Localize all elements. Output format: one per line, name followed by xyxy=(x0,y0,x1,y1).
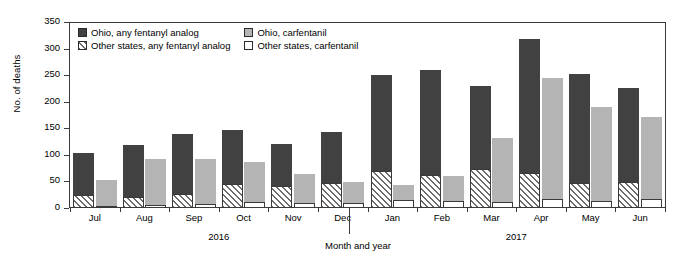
x-axis-label-apr: Apr xyxy=(516,212,566,223)
bar xyxy=(145,159,166,208)
legend-label: Other states, carfentanil xyxy=(257,40,358,51)
x-axis-label-sep: Sep xyxy=(169,212,219,223)
segment-other-states-any-fentanyl-analog xyxy=(519,173,540,208)
x-axis-title: Month and year xyxy=(258,240,458,251)
x-axis-label-oct: Oct xyxy=(219,212,269,223)
segment-other-states-carfentanil xyxy=(393,200,414,208)
solid-dark-swatch-icon xyxy=(78,28,87,37)
y-axis-tick-label: 250 xyxy=(44,68,60,79)
segment-ohio-carfentanil xyxy=(343,182,364,203)
segment-ohio-any-fentanyl-analog xyxy=(618,88,639,182)
segment-ohio-any-fentanyl-analog xyxy=(321,132,342,183)
legend-item-ohio-analog: Ohio, any fentanyl analog xyxy=(78,27,230,38)
y-axis-tick-mark xyxy=(64,75,69,76)
segment-other-states-carfentanil xyxy=(244,202,265,208)
bar xyxy=(519,39,540,208)
x-axis-tick-mark xyxy=(665,208,666,212)
segment-other-states-carfentanil xyxy=(591,201,612,208)
y-axis-tick-mark xyxy=(64,128,69,129)
bar xyxy=(195,159,216,208)
bar xyxy=(343,182,364,208)
segment-other-states-any-fentanyl-analog xyxy=(618,182,639,208)
segment-ohio-carfentanil xyxy=(492,138,513,201)
bar xyxy=(294,174,315,208)
bar xyxy=(542,78,563,208)
segment-ohio-carfentanil xyxy=(591,107,612,202)
bar xyxy=(271,144,292,208)
segment-ohio-carfentanil xyxy=(145,159,166,206)
bar xyxy=(96,180,117,208)
y-axis-tick-label: 100 xyxy=(44,148,60,159)
segment-ohio-any-fentanyl-analog xyxy=(470,86,491,168)
open-white-swatch-icon xyxy=(244,41,253,50)
x-axis-label-jul: Jul xyxy=(70,212,120,223)
bar xyxy=(371,75,392,208)
bar xyxy=(172,134,193,208)
bar xyxy=(492,138,513,208)
y-axis-tick-label: 50 xyxy=(49,174,60,185)
y-axis-tick-mark xyxy=(64,22,69,23)
segment-ohio-carfentanil xyxy=(244,162,265,202)
segment-other-states-carfentanil xyxy=(641,199,662,208)
legend-label: Other states, any fentanyl analog xyxy=(91,40,230,51)
y-axis-tick-label: 300 xyxy=(44,42,60,53)
segment-other-states-carfentanil xyxy=(294,203,315,208)
segment-other-states-any-fentanyl-analog xyxy=(123,197,144,208)
segment-ohio-carfentanil xyxy=(195,159,216,205)
segment-other-states-carfentanil xyxy=(492,202,513,208)
segment-other-states-carfentanil xyxy=(145,205,166,208)
bar xyxy=(393,185,414,208)
segment-other-states-any-fentanyl-analog xyxy=(470,169,491,208)
segment-ohio-carfentanil xyxy=(393,185,414,200)
segment-ohio-any-fentanyl-analog xyxy=(172,134,193,195)
segment-ohio-carfentanil xyxy=(443,176,464,201)
x-axis-label-jan: Jan xyxy=(368,212,418,223)
bar xyxy=(244,162,265,208)
segment-ohio-any-fentanyl-analog xyxy=(420,70,441,175)
y-axis-tick-mark xyxy=(64,155,69,156)
segment-ohio-carfentanil xyxy=(96,180,117,207)
segment-ohio-any-fentanyl-analog xyxy=(569,74,590,183)
segment-ohio-carfentanil xyxy=(641,117,662,199)
legend-item-other-carfentanil: Other states, carfentanil xyxy=(244,40,358,51)
segment-other-states-any-fentanyl-analog xyxy=(569,183,590,209)
hatched-swatch-icon xyxy=(78,41,87,50)
x-axis-label-aug: Aug xyxy=(120,212,170,223)
segment-other-states-any-fentanyl-analog xyxy=(321,183,342,208)
bar xyxy=(618,88,639,208)
y-axis-tick-label: 0 xyxy=(55,201,60,212)
y-axis-title: No. of deaths xyxy=(11,24,22,144)
x-axis-label-mar: Mar xyxy=(467,212,517,223)
bar xyxy=(321,132,342,208)
segment-other-states-any-fentanyl-analog xyxy=(420,175,441,208)
segment-other-states-any-fentanyl-analog xyxy=(172,194,193,208)
bar xyxy=(222,130,243,208)
segment-other-states-carfentanil xyxy=(96,206,117,208)
bar xyxy=(591,107,612,209)
segment-ohio-any-fentanyl-analog xyxy=(271,144,292,187)
segment-other-states-any-fentanyl-analog xyxy=(271,186,292,208)
bar xyxy=(641,117,662,208)
fentanyl-deaths-bar-chart: No. of deaths 050100150200250300350 JulA… xyxy=(0,0,679,267)
segment-ohio-any-fentanyl-analog xyxy=(73,153,94,195)
segment-other-states-any-fentanyl-analog xyxy=(73,195,94,208)
legend-label: Ohio, carfentanil xyxy=(257,27,326,38)
y-axis-tick-mark xyxy=(64,49,69,50)
segment-other-states-any-fentanyl-analog xyxy=(222,184,243,208)
x-axis-label-nov: Nov xyxy=(268,212,318,223)
bar xyxy=(443,176,464,208)
chart-legend: Ohio, any fentanyl analog Ohio, carfenta… xyxy=(78,27,358,51)
segment-ohio-any-fentanyl-analog xyxy=(222,130,243,183)
x-axis-label-dec: Dec xyxy=(318,212,368,223)
bar xyxy=(73,153,94,208)
bar xyxy=(123,145,144,208)
segment-ohio-any-fentanyl-analog xyxy=(371,75,392,171)
y-axis-tick-mark xyxy=(64,208,69,209)
y-axis-tick-label: 350 xyxy=(44,15,60,26)
segment-ohio-any-fentanyl-analog xyxy=(123,145,144,197)
x-axis-label-feb: Feb xyxy=(417,212,467,223)
y-axis-tick-mark xyxy=(64,181,69,182)
segment-other-states-carfentanil xyxy=(443,201,464,208)
bar xyxy=(470,86,491,208)
bar xyxy=(569,74,590,208)
